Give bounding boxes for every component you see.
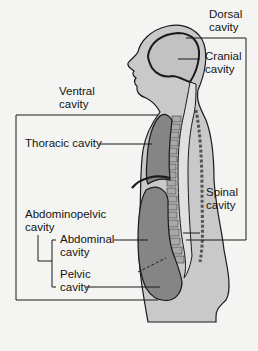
label-pelvic-cavity: Pelvic cavity bbox=[60, 268, 91, 294]
body-cavities-diagram: Dorsal cavity Cranial cavity Ventral cav… bbox=[0, 0, 258, 351]
thoracic-cavity-region bbox=[146, 114, 172, 184]
label-cranial-cavity: Cranial cavity bbox=[205, 50, 241, 76]
label-thoracic-cavity: Thoracic cavity bbox=[25, 137, 102, 150]
abdominopelvic-bracket bbox=[38, 235, 52, 261]
label-spinal-cavity: Spinal cavity bbox=[206, 186, 238, 212]
label-abdominal-cavity: Abdominal cavity bbox=[60, 233, 114, 259]
label-dorsal-cavity: Dorsal cavity bbox=[209, 8, 242, 34]
label-abdominopelvic-cavity: Abdominopelvic cavity bbox=[25, 208, 106, 234]
abdominal-pelvic-subbracket bbox=[52, 240, 56, 287]
label-ventral-cavity: Ventral cavity bbox=[59, 85, 95, 111]
